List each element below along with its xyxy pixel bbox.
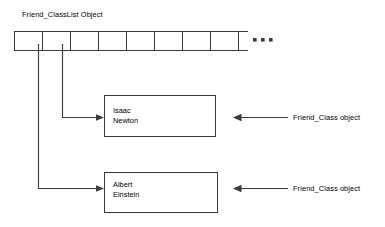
friend-class-name-first-isaac: Isaac [113,106,131,116]
diagram-text-layer: Friend_ClassList Object Isaac Newton Alb… [0,0,385,227]
friend-class-name-first-albert: Albert [113,180,132,190]
diagram-title: Friend_ClassList Object [22,10,103,20]
annotation-label-lower: Friend_Class object [293,184,360,194]
diagram-canvas: Friend_ClassList Object Isaac Newton Alb… [0,0,385,227]
annotation-label-upper: Friend_Class object [293,113,360,123]
friend-class-name-last-einstein: Einstein [113,190,139,200]
friend-class-name-last-newton: Newton [113,116,138,126]
